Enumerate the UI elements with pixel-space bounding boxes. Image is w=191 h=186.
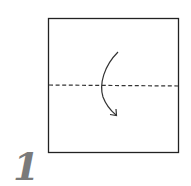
paper-square [49,19,179,153]
step-number: 1 [13,148,39,186]
